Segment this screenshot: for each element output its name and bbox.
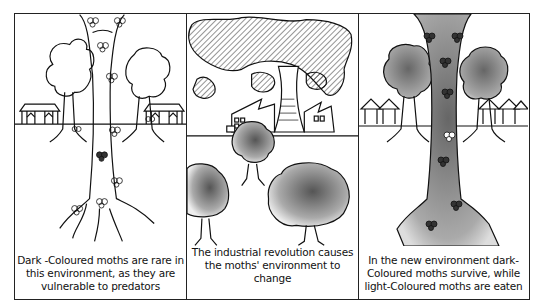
caption-line: Coloured moths survive, while — [361, 267, 526, 280]
caption-before: Dark -Coloured moths are rare in this en… — [17, 254, 184, 293]
caption-line: The industrial revolution causes — [189, 246, 356, 259]
dark-tree-illustration — [359, 14, 528, 246]
factory-icon — [304, 102, 334, 132]
panel-before-industrial: Dark -Coloured moths are rare in this en… — [15, 14, 187, 299]
soot-tree-icon — [187, 164, 229, 217]
caption-line: light-Coloured moths are eaten — [361, 280, 526, 293]
panel-industrial-revolution: The industrial revolution causes the mot… — [187, 14, 359, 299]
soot-tree-icon — [268, 163, 349, 226]
panel-after-industrial: In the new environment dark- Coloured mo… — [359, 14, 528, 299]
caption-after: In the new environment dark- Coloured mo… — [361, 254, 526, 293]
caption-line: Dark -Coloured moths are rare in — [17, 254, 184, 267]
caption-line: this environment, as they are — [17, 267, 184, 280]
light-tree-illustration — [15, 14, 186, 246]
industrial-scene-illustration — [187, 14, 358, 246]
comic-strip: Dark -Coloured moths are rare in this en… — [14, 13, 530, 300]
caption-line: the moths' environment to change — [189, 259, 356, 285]
house-icon — [20, 104, 60, 124]
caption-line: In the new environment dark- — [361, 254, 526, 267]
caption-line: vulnerable to predators — [17, 280, 184, 293]
dark-moth-icon — [97, 152, 108, 161]
caption-industrial: The industrial revolution causes the mot… — [189, 246, 356, 285]
